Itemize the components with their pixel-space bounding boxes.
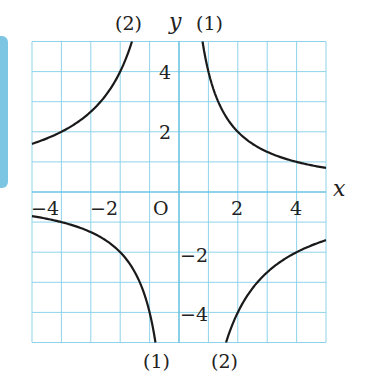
x-tick-4: 4 [290,199,302,218]
y-tick-neg2: −2 [180,246,208,265]
curve-1-top-label: (1) [196,14,223,33]
y-axis-label: y [169,11,181,33]
y-tick-2: 2 [159,123,171,142]
axes [32,42,326,343]
curve-1-bottom-label: (1) [143,352,170,371]
x-tick-neg2: −2 [90,199,118,218]
curve-2-bottom-label: (2) [211,352,238,371]
x-axis-label: x [333,178,345,200]
x-tick-2: 2 [231,199,243,218]
curve-1-left-branch [32,216,155,342]
curve-2-right-branch [226,240,326,342]
curve-2-top-label: (2) [115,14,142,33]
origin-label: O [153,199,169,218]
y-tick-neg4: −4 [180,305,208,324]
curve-1-right-branch [203,42,326,168]
y-tick-4: 4 [159,63,171,82]
hyperbola-chart [0,0,368,390]
curve-2-left-branch [32,42,132,144]
x-tick-neg4: −4 [31,199,59,218]
